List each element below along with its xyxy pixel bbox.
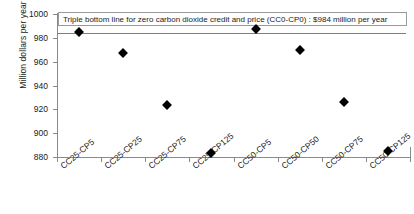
data-point bbox=[74, 27, 84, 37]
x-tick-mark bbox=[366, 158, 367, 162]
data-point bbox=[383, 146, 393, 156]
x-tick-mark bbox=[322, 158, 323, 162]
y-tick-label: 940 bbox=[2, 82, 48, 91]
scatter-chart: Million dollars per year 100098096094092… bbox=[0, 0, 414, 214]
x-tick-mark bbox=[57, 158, 58, 162]
plot-area bbox=[57, 14, 410, 157]
data-point bbox=[118, 48, 128, 58]
data-point bbox=[162, 100, 172, 110]
x-tick-mark bbox=[145, 158, 146, 162]
y-tick-label: 920 bbox=[2, 105, 48, 114]
x-tick-mark bbox=[234, 158, 235, 162]
y-tick-label: 980 bbox=[2, 34, 48, 43]
data-point bbox=[295, 45, 305, 55]
y-tick-label: 1000 bbox=[2, 10, 48, 19]
y-tick-label: 960 bbox=[2, 58, 48, 67]
x-tick-mark bbox=[410, 158, 411, 162]
data-point bbox=[206, 148, 216, 158]
y-tick-label: 900 bbox=[2, 129, 48, 138]
y-tick-label: 880 bbox=[2, 153, 48, 162]
x-tick-mark bbox=[101, 158, 102, 162]
x-tick-mark bbox=[189, 158, 190, 162]
data-point bbox=[339, 97, 349, 107]
x-tick-mark bbox=[278, 158, 279, 162]
data-point bbox=[251, 25, 261, 35]
x-axis-right-end-tick bbox=[410, 147, 411, 158]
